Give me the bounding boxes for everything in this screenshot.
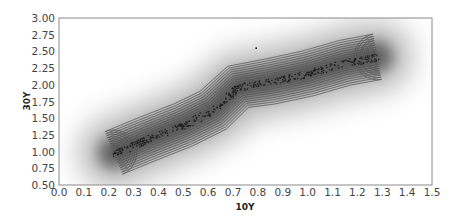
y-tick-label: 1.00 — [32, 146, 55, 158]
x-tick-label: 0.8 — [250, 186, 267, 198]
x-tick-label: 0.2 — [100, 186, 117, 198]
y-tick-label: 1.25 — [32, 129, 55, 141]
x-axis-ticks: 0.00.10.20.30.40.50.60.70.80.91.01.11.21… — [51, 186, 441, 198]
x-tick-label: 1.5 — [424, 186, 441, 198]
y-axis-ticks: 0.500.751.001.251.501.752.002.252.502.75… — [32, 12, 55, 191]
x-tick-label: 1.1 — [324, 186, 341, 198]
x-tick-label: 0.5 — [175, 186, 192, 198]
y-axis-label: 30Y — [22, 91, 32, 111]
y-tick-label: 0.75 — [32, 162, 55, 174]
x-tick-label: 0.6 — [200, 186, 217, 198]
x-tick-label: 0.3 — [125, 186, 142, 198]
y-tick-label: 0.50 — [32, 179, 55, 191]
y-tick-label: 2.75 — [32, 29, 55, 41]
outlier-point — [255, 47, 257, 49]
plot-area — [59, 18, 432, 185]
x-tick-label: 0.9 — [274, 186, 291, 198]
x-tick-label: 1.4 — [399, 186, 416, 198]
x-tick-label: 0.7 — [225, 186, 242, 198]
y-tick-label: 2.00 — [32, 79, 55, 91]
x-tick-label: 0.4 — [150, 186, 167, 198]
y-tick-label: 1.50 — [32, 112, 55, 124]
kde-chart: 0.00.10.20.30.40.50.60.70.80.91.01.11.21… — [0, 0, 461, 219]
y-tick-label: 3.00 — [32, 12, 55, 24]
y-tick-label: 1.75 — [32, 96, 55, 108]
x-tick-label: 1.2 — [349, 186, 366, 198]
y-tick-label: 2.50 — [32, 45, 55, 57]
x-tick-label: 1.3 — [374, 186, 391, 198]
x-axis-label: 10Y — [235, 202, 255, 212]
y-tick-label: 2.25 — [32, 62, 55, 74]
x-tick-label: 0.1 — [76, 186, 93, 198]
x-tick-label: 1.0 — [299, 186, 316, 198]
